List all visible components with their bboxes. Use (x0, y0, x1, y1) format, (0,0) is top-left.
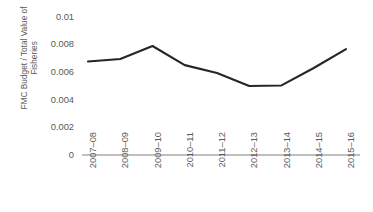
x-axis-tick-label: 2010–11 (185, 130, 195, 190)
x-axis-tick-label: 2014–15 (314, 130, 324, 190)
x-axis-tick-label: 2008–09 (120, 130, 130, 190)
x-axis-tick-label: 2012–13 (249, 130, 259, 190)
x-axis-tick-label: 2013–14 (282, 130, 292, 190)
line-chart: FMC Budget / Total Value of Fisheries 00… (0, 0, 373, 212)
x-axis-tick-label: 2009–10 (153, 130, 163, 190)
x-axis-tick-labels: 2007–082008–092009–102010–112011–122012–… (0, 0, 373, 212)
x-axis-tick-label: 2011–12 (217, 130, 227, 190)
x-axis-tick-label: 2015–16 (346, 130, 356, 190)
x-axis-tick-label: 2007–08 (88, 130, 98, 190)
